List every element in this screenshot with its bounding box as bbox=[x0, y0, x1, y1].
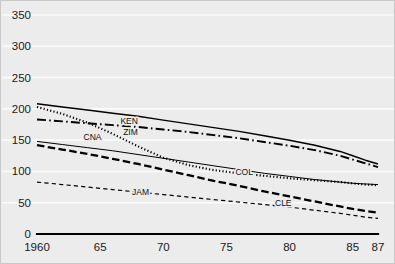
x-tick-label: 65 bbox=[94, 241, 107, 253]
x-tick-label: 80 bbox=[283, 241, 296, 253]
chart-figure: 0501001502002503003501960657075808587KEN… bbox=[0, 0, 395, 264]
x-tick-label: 75 bbox=[220, 241, 233, 253]
y-tick-label: 100 bbox=[12, 165, 31, 177]
series-label-cna: CNA bbox=[84, 132, 102, 142]
series-label-jam: JAM bbox=[132, 187, 149, 197]
y-tick-label: 0 bbox=[25, 228, 31, 240]
y-tick-label: 250 bbox=[12, 72, 31, 84]
series-line-cna bbox=[37, 107, 378, 185]
series-line-jam bbox=[37, 182, 378, 218]
x-tick-label: 70 bbox=[157, 241, 170, 253]
series-label-ken: KEN bbox=[120, 116, 137, 126]
y-tick-label: 150 bbox=[12, 134, 31, 146]
series-label-col: COL bbox=[235, 167, 253, 177]
y-tick-label: 200 bbox=[12, 103, 31, 115]
x-tick-label: 1960 bbox=[24, 241, 50, 253]
x-tick-label: 85 bbox=[346, 241, 359, 253]
series-label-zim: ZIM bbox=[123, 127, 138, 137]
x-tick-label: 87 bbox=[372, 241, 385, 253]
y-tick-label: 300 bbox=[12, 40, 31, 52]
series-label-cle: CLE bbox=[275, 198, 292, 208]
y-tick-label: 350 bbox=[12, 9, 31, 21]
line-chart: 0501001502002503003501960657075808587KEN… bbox=[1, 1, 395, 264]
y-tick-label: 50 bbox=[18, 197, 31, 209]
